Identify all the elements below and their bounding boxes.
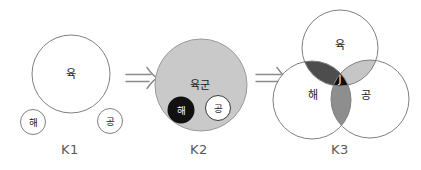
k3-land-label: 육 [335,39,345,52]
k1-sea-label: 해 [29,117,38,128]
k2-army-label: 육군 [190,79,210,92]
k3-group: 육 해 공 J K3 [273,10,409,157]
k2-caption: K2 [190,142,208,157]
k1-group: 육 해 공 K1 [21,35,123,157]
diagram-svg: 육 해 공 K1 육군 해 공 K2 [0,0,421,170]
k3-joint-label: J [338,74,342,85]
k2-air-label: 공 [214,103,223,114]
k1-caption: K1 [61,142,79,157]
k1-land-label: 육 [66,68,76,81]
k2-group: 육군 해 공 K2 [155,39,247,157]
k3-air-label: 공 [361,89,371,102]
k3-caption: K3 [331,142,349,157]
double-arrow-icon [126,68,158,89]
k3-sea-label: 해 [308,88,318,102]
k2-sea-label: 해 [177,105,186,116]
venn-transformation-diagram: 육 해 공 K1 육군 해 공 K2 [0,0,421,170]
k1-air-label: 공 [106,116,115,127]
